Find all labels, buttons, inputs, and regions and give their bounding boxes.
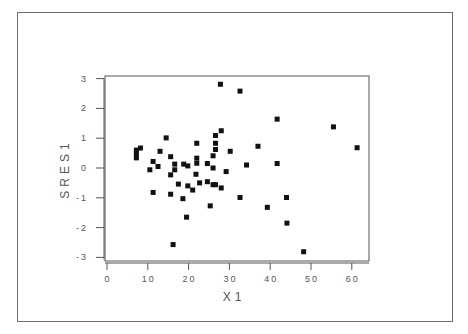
plot-area xyxy=(105,76,369,261)
x-tick-label: 50 xyxy=(305,274,319,284)
data-point xyxy=(180,196,185,201)
data-point xyxy=(168,172,173,177)
data-point xyxy=(194,161,199,166)
data-point xyxy=(213,133,218,138)
data-point xyxy=(211,153,216,158)
y-axis-title: SRES1 xyxy=(58,139,72,198)
data-point xyxy=(184,215,189,220)
data-point xyxy=(219,128,224,133)
x-tick-label: 60 xyxy=(346,274,360,284)
data-point xyxy=(151,159,156,164)
x-tick-label: 10 xyxy=(142,274,156,284)
data-point xyxy=(213,141,218,146)
x-tick-label: 20 xyxy=(183,274,197,284)
data-point xyxy=(158,149,163,154)
data-point xyxy=(224,169,229,174)
y-tick-label: -1 xyxy=(76,193,88,203)
x-axis-title: X1 xyxy=(223,290,246,304)
data-point xyxy=(265,205,270,210)
data-point xyxy=(213,147,218,152)
y-tick-label: 0 xyxy=(81,163,88,173)
data-points xyxy=(134,82,360,254)
y-tick-label: 1 xyxy=(81,133,88,143)
data-point xyxy=(190,188,195,193)
x-tick-label: 30 xyxy=(223,274,237,284)
data-point xyxy=(205,179,210,184)
data-point xyxy=(211,166,216,171)
data-point xyxy=(168,192,173,197)
x-tick-label: 0 xyxy=(104,274,111,284)
data-point xyxy=(275,161,280,166)
data-point xyxy=(238,89,243,94)
data-point xyxy=(355,145,360,150)
data-point xyxy=(156,164,161,169)
axes: 3210-1-2-30102030405060 xyxy=(76,74,369,284)
data-point xyxy=(147,167,152,172)
data-point xyxy=(275,117,280,122)
data-point xyxy=(213,182,218,187)
x-tick-label: 40 xyxy=(264,274,278,284)
data-point xyxy=(168,154,173,159)
y-tick-label: 3 xyxy=(81,74,88,84)
data-point xyxy=(185,183,190,188)
data-point xyxy=(193,172,198,177)
data-point xyxy=(301,249,306,254)
y-tick-label: -3 xyxy=(76,252,88,262)
data-point xyxy=(172,167,177,172)
data-point xyxy=(255,144,260,149)
data-point xyxy=(151,190,156,195)
y-tick-label: -2 xyxy=(76,223,88,233)
data-point xyxy=(194,156,199,161)
data-point xyxy=(185,163,190,168)
data-point xyxy=(208,203,213,208)
data-point xyxy=(171,242,176,247)
data-point xyxy=(218,82,223,87)
data-point xyxy=(244,163,249,168)
data-point xyxy=(194,141,199,146)
data-point xyxy=(205,161,210,166)
data-point xyxy=(284,195,289,200)
data-point xyxy=(197,180,202,185)
data-point xyxy=(134,155,139,160)
scatter-plot: 3210-1-2-30102030405060 X1 SRES1 xyxy=(0,0,468,334)
data-point xyxy=(219,185,224,190)
data-point xyxy=(238,195,243,200)
data-point xyxy=(228,149,233,154)
data-point xyxy=(164,135,169,140)
data-point xyxy=(172,162,177,167)
y-tick-label: 2 xyxy=(81,103,88,113)
data-point xyxy=(176,182,181,187)
data-point xyxy=(331,124,336,129)
data-point xyxy=(284,221,289,226)
